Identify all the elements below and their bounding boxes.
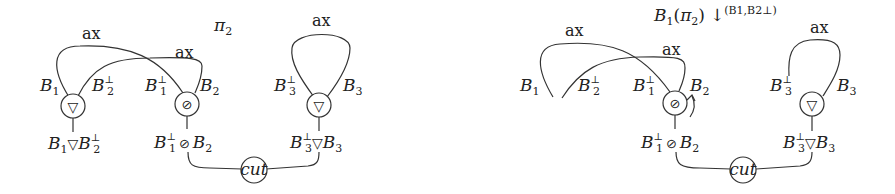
axiom-label-3: ax xyxy=(312,11,331,30)
label-b1-perp: B⊥1 xyxy=(632,74,655,98)
cut-label: cut xyxy=(729,159,756,179)
axiom-link-b3 xyxy=(789,40,840,96)
tensor-icon: ⊘ xyxy=(670,96,681,111)
tensor-icon: ⊘ xyxy=(182,97,193,112)
axiom-label-2: ax xyxy=(175,43,194,62)
label-b1: B1 xyxy=(519,75,540,98)
conclusion-b1perp-tensor-b2: B⊥1⊘B2 xyxy=(153,131,212,155)
cut-wire-left xyxy=(188,152,242,169)
label-b3: B3 xyxy=(836,75,857,98)
conclusion-b3perp-par-b3: B⊥3▽B3 xyxy=(289,131,342,155)
axiom-label-3: ax xyxy=(810,18,829,37)
label-b3-perp: B⊥3 xyxy=(769,74,792,98)
axiom-label-1: ax xyxy=(82,24,101,43)
axiom-label-2: ax xyxy=(662,40,681,59)
label-b2: B2 xyxy=(199,75,220,98)
par-icon: ▽ xyxy=(807,97,818,113)
label-b2-perp: B⊥2 xyxy=(577,74,600,98)
par-icon: ▽ xyxy=(314,98,325,114)
label-b2-perp: B⊥2 xyxy=(91,74,114,98)
conclusion-b3perp-par-b3: B⊥3▽B3 xyxy=(782,131,835,155)
cut-wire-left xyxy=(676,152,731,169)
label-b1: B1 xyxy=(39,75,60,98)
right-proof-net: B1(π2)↓(B1,B2⊥) ax ax B1 B⊥2 B⊥1 B2 ⊘ B⊥… xyxy=(519,4,857,183)
left-title: π2 xyxy=(213,15,232,38)
conclusion-b1perp-tensor-b2: B⊥1⊘B2 xyxy=(640,131,699,155)
left-proof-net: π2 ax ax ▽ B1 B⊥2 B1▽B⊥2 ⊘ B⊥1 B2 B⊥1⊘B2… xyxy=(39,11,363,183)
label-b3: B3 xyxy=(342,75,363,98)
label-b1-perp: B⊥1 xyxy=(144,74,167,98)
label-b3-perp: B⊥3 xyxy=(273,74,296,98)
axiom-link-b3 xyxy=(292,35,350,98)
conclusion-b1-par-b2perp: B1▽B⊥2 xyxy=(47,132,100,156)
par-icon: ▽ xyxy=(68,99,79,115)
cut-label: cut xyxy=(240,159,267,179)
proof-net-diagram: π2 ax ax ▽ B1 B⊥2 B1▽B⊥2 ⊘ B⊥1 B2 B⊥1⊘B2… xyxy=(0,0,895,194)
axiom-label-1: ax xyxy=(565,21,584,40)
right-title: B1(π2)↓(B1,B2⊥) xyxy=(653,4,777,28)
